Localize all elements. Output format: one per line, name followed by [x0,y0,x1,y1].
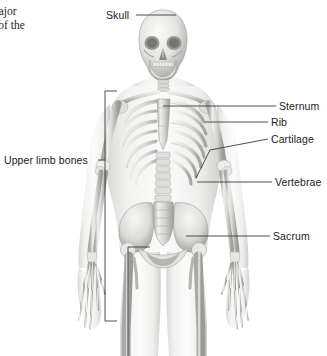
anatomy-figure: najor s of the Skull Sternum Rib Cartila… [0,0,327,356]
label-vertebrae: Vertebrae [275,176,321,188]
figure-caption-fragment-line2: s of the [0,19,25,33]
label-rib: Rib [271,116,287,128]
figure-caption-fragment-line1: najor [0,5,17,19]
label-upper-limb-bones: Upper limb bones [4,154,88,166]
label-cartilage: Cartilage [271,133,314,145]
label-sternum: Sternum [279,100,319,112]
label-skull: Skull [106,9,129,21]
label-sacrum: Sacrum [273,230,310,242]
